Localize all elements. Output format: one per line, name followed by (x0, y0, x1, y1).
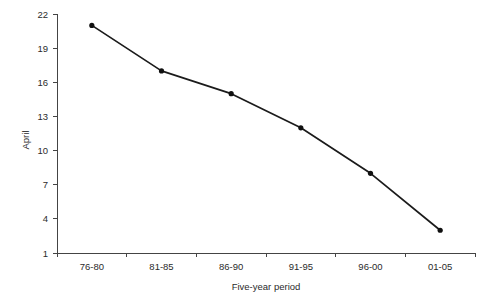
y-axis-tick-labels: 1471013161922 (37, 9, 48, 259)
line-chart: 1471013161922 76-8081-8586-9091-9596-000… (0, 0, 490, 305)
x-axis-tick-label: 76-80 (80, 261, 104, 272)
x-axis-tick-label: 86-90 (219, 261, 243, 272)
data-point (368, 171, 373, 176)
y-axis-tick-label: 13 (37, 111, 48, 122)
x-axis-title: Five-year period (232, 281, 301, 292)
y-axis-ticks (53, 14, 57, 253)
x-axis-tick-label: 01-05 (428, 261, 452, 272)
data-point (159, 68, 164, 73)
y-axis-tick-label: 16 (37, 77, 48, 88)
data-line-april (92, 25, 440, 230)
y-axis-tick-label: 7 (43, 179, 48, 190)
data-point (438, 228, 443, 233)
x-axis-ticks (57, 253, 475, 257)
x-axis-tick-label: 96-00 (358, 261, 382, 272)
x-axis-tick-label: 91-95 (289, 261, 313, 272)
data-point (89, 23, 94, 28)
y-axis-tick-label: 1 (43, 248, 48, 259)
y-axis-tick-label: 10 (37, 145, 48, 156)
y-axis-tick-label: 19 (37, 43, 48, 54)
y-axis-title: April (20, 130, 31, 149)
x-axis-tick-labels: 76-8081-8586-9091-9596-0001-05 (80, 261, 453, 272)
chart-canvas: 1471013161922 76-8081-8586-9091-9596-000… (0, 0, 490, 305)
data-point-markers (89, 23, 443, 233)
data-point (229, 91, 234, 96)
x-axis-tick-label: 81-85 (149, 261, 173, 272)
y-axis-tick-label: 22 (37, 9, 48, 20)
y-axis-tick-label: 4 (43, 213, 48, 224)
data-point (298, 125, 303, 130)
